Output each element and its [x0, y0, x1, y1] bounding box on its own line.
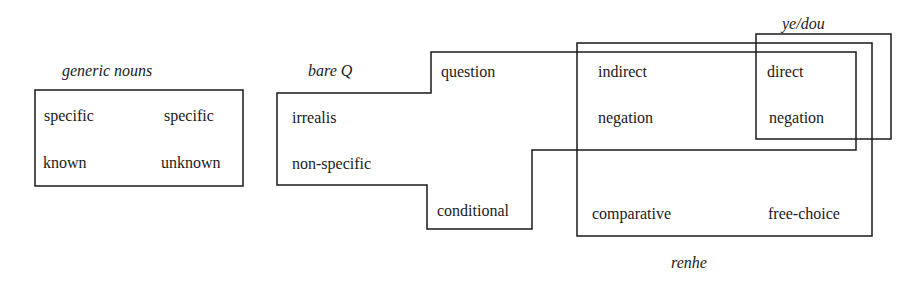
node-unknown: unknown — [161, 155, 221, 171]
generic-nouns-region — [35, 90, 243, 186]
node-negation-indirect: negation — [598, 110, 653, 126]
node-known: known — [43, 155, 87, 171]
node-free-choice: free-choice — [768, 206, 840, 222]
node-irrealis: irrealis — [292, 110, 336, 126]
renhe-label: renhe — [671, 255, 707, 271]
diagram-lines — [0, 0, 923, 281]
node-specific-1: specific — [44, 108, 94, 124]
node-negation-direct: negation — [769, 110, 824, 126]
node-specific-2: specific — [164, 108, 214, 124]
semantic-map-diagram: generic nouns bare Q ye/dou renhe specif… — [0, 0, 923, 281]
node-comparative: comparative — [592, 206, 671, 222]
ye-dou-label: ye/dou — [782, 16, 825, 32]
bare-q-label: bare Q — [308, 63, 352, 79]
node-non-specific: non-specific — [292, 156, 371, 172]
node-indirect: indirect — [598, 64, 647, 80]
generic-nouns-label: generic nouns — [62, 63, 152, 79]
node-direct: direct — [767, 64, 803, 80]
node-question: question — [441, 64, 495, 80]
node-conditional: conditional — [437, 203, 509, 219]
